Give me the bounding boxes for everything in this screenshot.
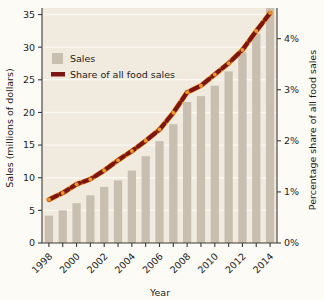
share-point — [61, 191, 65, 195]
share-point — [171, 111, 175, 115]
y-tick-label: 15 — [23, 139, 35, 150]
legend-swatch-sales — [52, 53, 63, 64]
share-point — [88, 177, 92, 181]
share-point — [130, 149, 134, 153]
bar — [252, 33, 260, 243]
share-point — [75, 182, 79, 186]
share-point — [185, 90, 189, 94]
y-tick-label: 25 — [23, 74, 35, 85]
share-point — [240, 48, 244, 52]
legend-swatch-share — [51, 72, 65, 77]
y2-tick-label: 3% — [284, 84, 299, 95]
share-point — [102, 168, 106, 172]
chart-container: 05101520253035 0%1%2%3%4% 19982000200220… — [0, 0, 324, 300]
bar — [224, 71, 232, 243]
legend-label-sales: Sales — [70, 53, 95, 64]
y-tick-label: 20 — [23, 107, 35, 118]
bar — [86, 195, 94, 243]
bar — [197, 96, 205, 243]
y2-tick-label: 2% — [284, 135, 299, 146]
x-axis-title: Year — [149, 287, 170, 298]
y2-tick-label: 0% — [284, 237, 299, 248]
y2-tick-label: 4% — [284, 33, 299, 44]
y-axis-left-title: Sales (millions of dollars) — [4, 68, 15, 187]
share-point — [227, 61, 231, 65]
bar — [100, 187, 108, 243]
y-tick-label: 10 — [23, 172, 35, 183]
share-point — [144, 139, 148, 143]
bar — [72, 203, 80, 243]
y-tick-label: 5 — [29, 205, 35, 216]
bar — [45, 216, 53, 243]
sales-and-share-combo-chart: 05101520253035 0%1%2%3%4% 19982000200220… — [0, 0, 324, 300]
y-tick-label: 0 — [29, 237, 35, 248]
bar — [59, 210, 67, 243]
bar — [128, 171, 136, 243]
y-tick-label: 35 — [23, 9, 35, 20]
y2-tick-label: 1% — [284, 186, 299, 197]
bar — [155, 141, 163, 243]
legend-label-share: Share of all food sales — [70, 69, 175, 80]
share-point — [254, 29, 258, 33]
share-point — [199, 84, 203, 88]
share-point — [47, 198, 51, 202]
bar — [238, 52, 246, 243]
y-tick-label: 30 — [23, 42, 35, 53]
share-point — [116, 158, 120, 162]
bar — [169, 124, 177, 243]
bar — [183, 102, 191, 243]
bar — [114, 180, 122, 243]
share-point — [213, 72, 217, 76]
share-point — [158, 128, 162, 132]
y-axis-right-title: Percentage share of all food sales — [307, 50, 318, 210]
bar — [142, 156, 150, 243]
bar — [266, 8, 274, 243]
share-point — [268, 11, 272, 15]
bar — [211, 86, 219, 243]
